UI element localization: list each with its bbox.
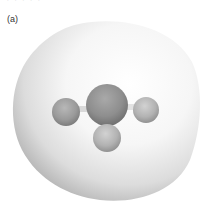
atom-central [86,84,128,126]
molecule-figure [0,0,206,208]
atom-right [133,97,159,123]
atom-bottom [93,124,121,152]
atom-left [52,98,80,126]
